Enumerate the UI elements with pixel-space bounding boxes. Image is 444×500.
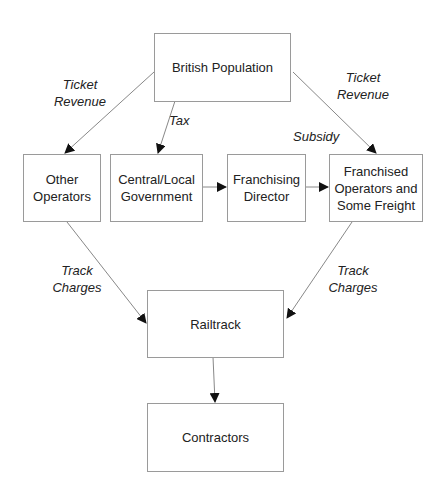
label-line: Revenue [54, 94, 106, 109]
node-label: Other Operators [30, 171, 94, 205]
node-label: Franchised Operators and Some Freight [330, 163, 422, 214]
node-label: Franchising Director [232, 171, 301, 205]
label-line: Track [61, 263, 93, 278]
label-line: Track [337, 263, 369, 278]
edge-railtrack-to-contractors [213, 357, 215, 402]
edge-label-subsidy: Subsidy [293, 128, 339, 145]
label-line: Revenue [337, 87, 389, 102]
label-line: Charges [52, 280, 101, 295]
edge-label-track-charges-left: Track Charges [47, 262, 107, 296]
edge-label-tax: Tax [169, 112, 189, 129]
edge-label-ticket-revenue-left: Ticket Revenue [50, 76, 110, 110]
node-label: Contractors [182, 429, 249, 446]
edge-label-ticket-revenue-right: Ticket Revenue [333, 69, 393, 103]
label-line: Ticket [63, 77, 98, 92]
node-government: Central/Local Government [110, 154, 203, 222]
diagram-canvas: British Population Other Operators Centr… [0, 0, 444, 500]
node-label: Central/Local Government [111, 171, 202, 205]
edge-label-track-charges-right: Track Charges [323, 262, 383, 296]
node-franchising-director: Franchising Director [227, 154, 306, 222]
node-contractors: Contractors [147, 403, 284, 472]
label-line: Ticket [346, 70, 381, 85]
node-british-population: British Population [154, 33, 291, 102]
node-label: Railtrack [190, 316, 241, 333]
label-line: Subsidy [293, 129, 339, 144]
label-line: Charges [328, 280, 377, 295]
node-label: British Population [172, 59, 273, 76]
label-line: Tax [169, 113, 189, 128]
node-railtrack: Railtrack [147, 290, 284, 358]
node-franchised-operators: Franchised Operators and Some Freight [329, 154, 423, 222]
node-other-operators: Other Operators [23, 154, 101, 222]
